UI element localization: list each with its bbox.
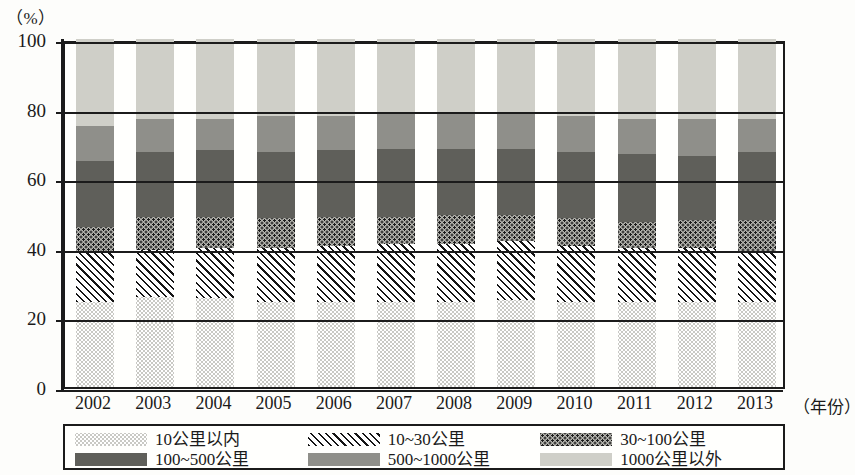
bar-segment [437, 112, 475, 149]
plot-area [63, 41, 785, 389]
bar-segment [196, 39, 234, 119]
bar-segment [678, 39, 716, 119]
bar-segment [196, 298, 234, 387]
legend-label: 1000公里以外 [620, 451, 722, 468]
y-tick-label-0: 0 [0, 379, 46, 398]
legend-swatch-icon [540, 453, 612, 466]
bar-segment [76, 227, 114, 251]
y-tick-mark-80 [56, 112, 67, 114]
bar-2002 [76, 39, 114, 387]
bar-segment [196, 248, 234, 298]
y-tick-mark-0 [56, 390, 67, 392]
gridline-60 [65, 181, 783, 183]
bar-segment [618, 302, 656, 387]
legend: 10公里以内10~30公里30~100公里100~500公里500~1000公里… [63, 424, 785, 470]
bar-segment [317, 39, 355, 116]
y-tick-mark-100 [56, 42, 67, 44]
bar-segment [76, 161, 114, 227]
bar-segment [738, 220, 776, 251]
x-tick-label-2005: 2005 [244, 393, 304, 414]
bar-segment [377, 39, 415, 114]
bar-segment [557, 246, 595, 302]
bar-segment [497, 241, 535, 300]
legend-item: 100~500公里 [75, 451, 308, 468]
bar-segment [437, 244, 475, 301]
y-tick-label-100: 100 [0, 31, 46, 50]
bar-segment [437, 302, 475, 387]
bar-segment [497, 114, 535, 149]
bar-segment [76, 302, 114, 387]
bar-segment [618, 39, 656, 119]
legend-label: 10公里以内 [155, 431, 240, 448]
bar-segment [738, 152, 776, 220]
bar-segment [618, 222, 656, 248]
bar-segment [738, 39, 776, 119]
bar-2013 [738, 39, 776, 387]
legend-label: 10~30公里 [388, 431, 465, 448]
gridline-100 [65, 42, 783, 44]
x-tick-label-2010: 2010 [544, 393, 604, 414]
x-tick-label-2004: 2004 [183, 393, 243, 414]
bar-segment [257, 218, 295, 248]
bar-segment [557, 152, 595, 218]
bar-segment [136, 152, 174, 216]
bar-segment [437, 39, 475, 112]
bar-segment [497, 300, 535, 387]
bar-segment [196, 217, 234, 248]
x-tick-label-2002: 2002 [63, 393, 123, 414]
x-tick-label-2006: 2006 [304, 393, 364, 414]
y-tick-label-80: 80 [0, 101, 46, 120]
legend-swatch-icon [308, 453, 380, 466]
x-tick-label-2003: 2003 [123, 393, 183, 414]
legend-swatch-icon [75, 433, 147, 446]
bar-segment [257, 39, 295, 116]
bars-layer [65, 43, 783, 387]
bar-segment [377, 244, 415, 301]
x-tick-label-2007: 2007 [364, 393, 424, 414]
y-axis-unit-label: （%） [6, 4, 56, 29]
bar-2008 [437, 39, 475, 387]
bar-segment [557, 116, 595, 153]
bar-segment [678, 156, 716, 220]
bar-segment [317, 150, 355, 216]
bar-segment [257, 248, 295, 302]
gridline-80 [65, 112, 783, 114]
bar-segment [196, 119, 234, 150]
legend-item: 500~1000公里 [308, 451, 541, 468]
bar-2003 [136, 39, 174, 387]
bar-segment [136, 217, 174, 250]
legend-swatch-icon [540, 433, 612, 446]
bar-segment [136, 250, 174, 297]
x-axis-name: （年份） [793, 393, 855, 418]
x-tick-label-2012: 2012 [665, 393, 725, 414]
bar-segment [557, 39, 595, 116]
bar-segment [257, 302, 295, 387]
y-tick-label-60: 60 [0, 170, 46, 189]
legend-item: 10~30公里 [308, 431, 541, 448]
bar-segment [317, 302, 355, 387]
bar-2011 [618, 39, 656, 387]
x-tick-label-2008: 2008 [424, 393, 484, 414]
bar-segment [618, 154, 656, 222]
y-tick-mark-60 [56, 181, 67, 183]
legend-label: 500~1000公里 [388, 451, 491, 468]
bar-2007 [377, 39, 415, 387]
bar-segment [317, 116, 355, 151]
y-tick-label-40: 40 [0, 240, 46, 259]
legend-item: 10公里以内 [75, 431, 308, 448]
stacked-bar-chart: （%） 020406080100 20022003200420052006200… [0, 0, 855, 475]
x-tick-label-2009: 2009 [484, 393, 544, 414]
legend-label: 100~500公里 [155, 451, 249, 468]
legend-swatch-icon [308, 433, 380, 446]
bar-segment [136, 39, 174, 119]
bar-segment [257, 152, 295, 218]
bar-2006 [317, 39, 355, 387]
legend-grid: 10公里以内10~30公里30~100公里100~500公里500~1000公里… [65, 429, 783, 468]
bar-segment [136, 297, 174, 387]
bar-segment [317, 217, 355, 247]
bar-segment [257, 116, 295, 153]
legend-item: 30~100公里 [540, 431, 773, 448]
bar-segment [557, 302, 595, 387]
bar-segment [738, 302, 776, 387]
x-tick-label-2013: 2013 [725, 393, 785, 414]
